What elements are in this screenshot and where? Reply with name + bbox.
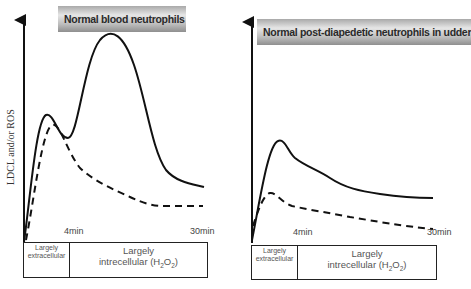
phase-label-line2: extracellular	[24, 252, 69, 260]
phase-label-line1: Largely	[24, 244, 69, 252]
left-y-axis-label: LDCL and/or ROS	[5, 109, 16, 185]
left-chart-title: Normal blood neutrophils	[58, 6, 186, 32]
phase-label-line1: Largely	[298, 248, 436, 259]
right-phase-intracellular: Largely intrecellular (H2O2)	[298, 246, 436, 279]
left-phase-intracellular: Largely intrecellular (H2O2)	[70, 243, 207, 277]
left-phase-table: Largely extracellular Largely intrecellu…	[23, 242, 208, 278]
left-tick-30min: 30min	[190, 226, 215, 236]
right-chart-title: Normal post-diapedetic neutrophils in ud…	[257, 19, 471, 45]
left-tick-4min: 4min	[64, 226, 84, 236]
right-dashed-curve	[253, 193, 433, 229]
phase-label-line2: intrecellular (H2O2)	[298, 259, 436, 273]
left-solid-curve	[24, 34, 204, 242]
right-solid-curve	[252, 141, 433, 240]
left-dashed-curve	[26, 125, 203, 240]
left-chart-plot	[24, 20, 204, 242]
phase-label-line2: extracellular	[252, 255, 297, 263]
phase-label-line2: intrecellular (H2O2)	[70, 256, 207, 270]
phase-label-line1: Largely	[252, 247, 297, 255]
right-phase-table: Largely extracellular Largely intrecellu…	[251, 245, 437, 280]
right-tick-30min: 30min	[427, 227, 452, 237]
left-phase-extracellular: Largely extracellular	[24, 243, 70, 277]
right-phase-extracellular: Largely extracellular	[252, 246, 298, 279]
right-chart-plot	[252, 22, 433, 243]
phase-label-line1: Largely	[70, 245, 207, 256]
right-tick-4min: 4min	[293, 227, 313, 237]
